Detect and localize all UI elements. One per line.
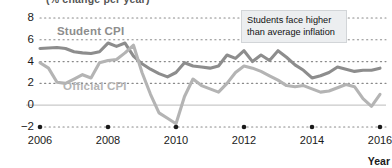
y-axis-tick-label: −2 <box>6 121 34 133</box>
annotation-line-1: Students face higher <box>247 14 342 26</box>
x-axis-tick-label: 2006 <box>28 134 52 146</box>
x-axis-title: Year <box>368 155 390 167</box>
x-axis-tick-label: 2010 <box>164 134 188 146</box>
y-axis-tick-label: 2 <box>6 77 34 89</box>
series-label-student-cpi: Student CPI <box>57 25 124 37</box>
x-axis-tick-label: 2008 <box>96 134 120 146</box>
y-axis-tick-label: 6 <box>6 34 34 46</box>
x-tick-dot <box>106 125 111 130</box>
series-label-official-cpi: Official CPI <box>63 80 127 92</box>
x-tick-dot <box>242 125 247 130</box>
x-axis-tick-label: 2014 <box>300 134 324 146</box>
y-axis-tick-label: 4 <box>6 56 34 68</box>
annotation-callout: Students face higher than average inflat… <box>241 10 347 43</box>
chart-container: (% change per year) 86420−2 200620082010… <box>0 0 392 168</box>
x-tick-dot <box>378 125 383 130</box>
x-axis-tick-label: 2016 <box>368 134 392 146</box>
x-tick-dot <box>310 125 315 130</box>
chart-title: (% change per year) <box>46 0 150 5</box>
x-tick-dot <box>174 125 179 130</box>
annotation-line-2: than average inflation <box>247 26 342 38</box>
x-tick-dot <box>38 125 43 130</box>
x-axis-tick-label: 2012 <box>232 134 256 146</box>
y-axis-tick-label: 8 <box>6 12 34 24</box>
series-line-student-cpi <box>40 43 380 78</box>
y-axis-tick-label: 0 <box>6 99 34 111</box>
